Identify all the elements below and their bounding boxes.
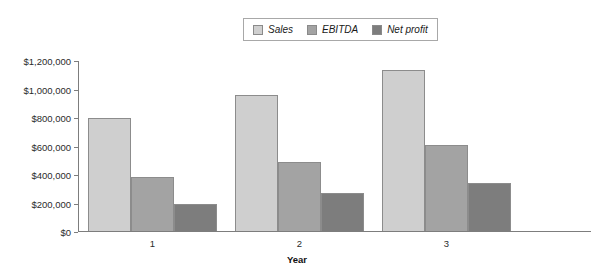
bar-ebitda-year-3[interactable] — [425, 145, 468, 232]
y-axis-tick-mark — [74, 175, 78, 176]
bar-ebitda-year-1[interactable] — [131, 177, 174, 232]
chart-legend: SalesEBITDANet profit — [243, 18, 438, 41]
y-axis-tick-mark — [74, 204, 78, 205]
x-axis-title: Year — [0, 254, 594, 265]
y-axis-tick-label: $200,000 — [5, 198, 71, 209]
legend-label: Sales — [268, 25, 293, 35]
y-axis-tick-mark — [74, 118, 78, 119]
y-axis-tick-label: $600,000 — [5, 141, 71, 152]
bar-sales-year-3[interactable] — [382, 70, 425, 232]
bar-chart: SalesEBITDANet profit $0$200,000$400,000… — [0, 0, 594, 276]
y-axis-line — [78, 61, 79, 232]
bar-sales-year-1[interactable] — [88, 118, 131, 232]
x-axis-tick-label: 3 — [444, 238, 449, 249]
x-axis-tick-label: 1 — [150, 238, 155, 249]
x-axis-line — [78, 231, 591, 232]
bar-net-profit-year-3[interactable] — [468, 183, 511, 232]
x-axis-tick-label: 2 — [297, 238, 302, 249]
y-axis-tick-mark — [74, 90, 78, 91]
bar-net-profit-year-2[interactable] — [321, 193, 364, 232]
bar-net-profit-year-1[interactable] — [174, 204, 217, 233]
y-axis-tick-label: $1,000,000 — [5, 84, 71, 95]
y-axis-tick-label: $400,000 — [5, 170, 71, 181]
legend-entry-net-profit[interactable]: Net profit — [372, 25, 428, 35]
y-axis-tick-label: $800,000 — [5, 113, 71, 124]
plot-area: $0$200,000$400,000$600,000$800,000$1,000… — [78, 61, 588, 232]
legend-swatch-icon — [372, 25, 382, 35]
y-axis-tick-label: $1,200,000 — [5, 56, 71, 67]
y-axis-tick-mark — [74, 61, 78, 62]
bar-ebitda-year-2[interactable] — [278, 162, 321, 232]
legend-label: Net profit — [387, 25, 428, 35]
bar-sales-year-2[interactable] — [235, 95, 278, 232]
legend-label: EBITDA — [322, 25, 358, 35]
legend-swatch-icon — [307, 25, 317, 35]
y-axis-tick-label: $0 — [5, 227, 71, 238]
legend-swatch-icon — [253, 25, 263, 35]
y-axis-tick-mark — [74, 232, 78, 233]
legend-entry-ebitda[interactable]: EBITDA — [307, 25, 358, 35]
legend-entry-sales[interactable]: Sales — [253, 25, 293, 35]
y-axis-tick-mark — [74, 147, 78, 148]
